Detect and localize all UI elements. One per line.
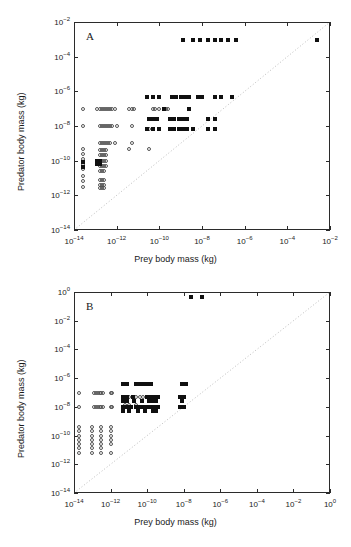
y-tick-label: 10−4 [28, 343, 70, 354]
x-tick-mark-top [245, 22, 246, 26]
data-point-open-circle [101, 391, 105, 395]
data-point-filled-square [180, 399, 184, 403]
data-point-filled-square [162, 107, 166, 111]
data-point-open-circle [102, 169, 106, 173]
y-tick-label: 10−12 [28, 458, 70, 469]
data-point-filled-square [191, 127, 195, 131]
data-point-open-circle [102, 178, 106, 182]
data-point-filled-square [315, 38, 319, 42]
data-point-filled-square [189, 295, 193, 299]
x-tick-mark-top [159, 22, 160, 26]
x-tick-label: 100 [310, 498, 350, 509]
y-tick-mark [74, 91, 78, 92]
data-point-filled-square [140, 399, 144, 403]
y-tick-mark [74, 195, 78, 196]
data-point-open-circle [81, 124, 85, 128]
data-point-filled-square [219, 95, 223, 99]
data-point-filled-square [151, 95, 155, 99]
data-point-filled-square [155, 117, 159, 121]
y-tick-mark [74, 126, 78, 127]
y-tick-mark-right [326, 126, 330, 127]
x-tick-label: 10−14 [54, 235, 94, 246]
x-tick-label: 10−8 [164, 498, 204, 509]
y-tick-mark [74, 493, 78, 494]
x-tick-label: 10−6 [200, 498, 240, 509]
data-point-filled-square [182, 405, 186, 409]
y-tick-mark [74, 57, 78, 58]
data-point-filled-square [187, 95, 191, 99]
x-tick-label: 10−4 [267, 235, 307, 246]
data-point-filled-square [132, 399, 136, 403]
data-point-open-circle [147, 147, 151, 151]
y-tick-label: 10−2 [28, 315, 70, 326]
y-tick-mark-right [326, 407, 330, 408]
panel-a: A Prey body mass (kg) Predator body mass… [0, 0, 351, 273]
x-tick-label: 10−2 [273, 498, 313, 509]
data-point-filled-square [154, 409, 158, 413]
x-tick-label: 10−4 [237, 498, 277, 509]
y-tick-mark-right [326, 22, 330, 23]
data-point-filled-square [234, 38, 238, 42]
data-point-filled-square [219, 38, 223, 42]
data-point-filled-square [200, 295, 204, 299]
data-point-open-circle [81, 147, 85, 151]
data-point-filled-square [191, 38, 195, 42]
y-tick-mark [74, 321, 78, 322]
y-tick-label: 10−14 [28, 224, 70, 235]
x-tick-mark-top [220, 292, 221, 296]
y-tick-mark-right [326, 464, 330, 465]
x-tick-mark [111, 489, 112, 493]
data-point-filled-square [149, 382, 153, 386]
y-tick-label: 10−8 [28, 120, 70, 131]
data-point-filled-square [226, 38, 230, 42]
x-tick-label: 10−6 [225, 235, 265, 246]
y-tick-label: 10−6 [28, 372, 70, 383]
x-tick-mark-top [293, 292, 294, 296]
y-tick-mark [74, 292, 78, 293]
data-point-filled-square [206, 38, 210, 42]
x-tick-mark-top [147, 292, 148, 296]
data-point-open-circle [109, 442, 113, 446]
x-tick-mark-top [330, 292, 331, 296]
y-tick-mark-right [326, 57, 330, 58]
y-tick-mark [74, 22, 78, 23]
y-tick-mark [74, 161, 78, 162]
x-tick-mark-top [111, 292, 112, 296]
y-tick-mark-right [326, 321, 330, 322]
x-tick-mark [257, 489, 258, 493]
data-point-filled-square [184, 382, 188, 386]
data-point-filled-square [181, 38, 185, 42]
data-point-open-circle [110, 391, 114, 395]
x-tick-label: 10−12 [91, 498, 131, 509]
data-point-filled-square [213, 95, 217, 99]
data-point-filled-square [136, 409, 140, 413]
x-tick-label: 10−8 [182, 235, 222, 246]
data-point-open-circle [81, 185, 85, 189]
y-tick-label: 10−10 [28, 155, 70, 166]
data-point-filled-square [157, 127, 161, 131]
x-tick-label: 10−14 [54, 498, 94, 509]
data-point-filled-square [157, 95, 161, 99]
data-point-filled-square [200, 95, 204, 99]
data-point-filled-square [213, 127, 217, 131]
data-point-filled-square [125, 399, 129, 403]
x-tick-mark-top [330, 22, 331, 26]
data-point-filled-square [206, 117, 210, 121]
y-tick-label: 10−12 [28, 189, 70, 200]
data-point-filled-square [98, 162, 102, 166]
x-tick-label: 10−10 [139, 235, 179, 246]
data-point-open-circle [130, 124, 134, 128]
data-point-filled-square [145, 95, 149, 99]
data-point-open-circle [109, 429, 113, 433]
x-tick-mark [293, 489, 294, 493]
y-tick-mark-right [326, 292, 330, 293]
data-point-filled-square [151, 127, 155, 131]
y-tick-mark [74, 464, 78, 465]
x-tick-mark-top [184, 292, 185, 296]
x-tick-mark [330, 489, 331, 493]
data-point-open-circle [104, 164, 108, 168]
x-tick-mark-top [287, 22, 288, 26]
y-axis-title-b: Predator body mass (kg) [16, 359, 26, 458]
data-point-filled-square [185, 127, 189, 131]
data-point-open-circle [115, 124, 119, 128]
